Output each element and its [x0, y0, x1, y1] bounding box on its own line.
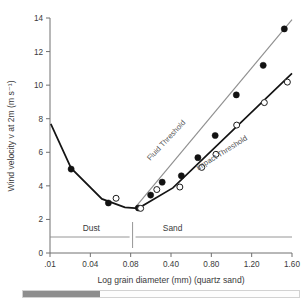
x-tick-label: 1.20	[244, 260, 260, 269]
data-point	[284, 79, 290, 85]
y-tick-label: 0	[38, 249, 43, 258]
fluid-threshold-curve	[135, 20, 292, 208]
data-point	[195, 155, 201, 161]
data-point	[178, 173, 184, 179]
data-point	[233, 92, 239, 98]
y-tick-label: 2	[38, 215, 43, 224]
data-point	[159, 179, 165, 185]
impact-threshold-label: Impact Threshold	[194, 134, 248, 173]
y-tick-label: 8	[38, 115, 43, 124]
x-tick-label: 0.08	[123, 260, 139, 269]
data-point	[113, 195, 119, 201]
data-point	[177, 184, 183, 190]
x-tick-label: 1.60	[284, 260, 300, 269]
x-tick-label: 0.04	[82, 260, 98, 269]
dust-zone-label: Dust	[83, 223, 101, 233]
data-point	[234, 122, 240, 128]
figure-container: 02468101214 .010.040.080.400.801.201.60 …	[0, 0, 302, 301]
data-point	[281, 26, 287, 32]
y-tick-label: 10	[34, 81, 44, 90]
data-point	[261, 100, 267, 106]
impact-threshold-points	[113, 79, 290, 211]
data-point	[105, 200, 111, 206]
y-tick-label: 4	[38, 182, 43, 191]
x-axis-ticks: .010.040.080.400.801.201.60	[44, 253, 300, 269]
data-point	[260, 62, 266, 68]
y-tick-label: 12	[34, 48, 44, 57]
x-tick-label: 0.40	[163, 260, 179, 269]
horizontal-scrollbar-thumb[interactable]	[23, 291, 100, 297]
x-tick-label: 0.80	[203, 260, 219, 269]
data-point	[148, 192, 154, 198]
y-axis-ticks: 02468101214	[34, 14, 50, 258]
sand-zone-label: Sand	[163, 223, 183, 233]
y-tick-label: 6	[38, 148, 43, 157]
x-axis-title: Log grain diameter (mm) (quartz sand)	[97, 275, 244, 285]
horizontal-scrollbar-track[interactable]	[22, 290, 300, 298]
y-tick-label: 14	[34, 14, 44, 23]
data-point	[138, 205, 144, 211]
fluid-threshold-label: Fluid Threshold	[145, 118, 187, 162]
data-point	[154, 187, 160, 193]
data-point	[68, 166, 74, 172]
y-axis-title: Wind velocity v at 2m (m s⁻¹)	[6, 80, 16, 191]
x-tick-label: .01	[44, 260, 56, 269]
wind-velocity-threshold-chart: 02468101214 .010.040.080.400.801.201.60 …	[0, 0, 302, 290]
data-point	[212, 132, 218, 138]
